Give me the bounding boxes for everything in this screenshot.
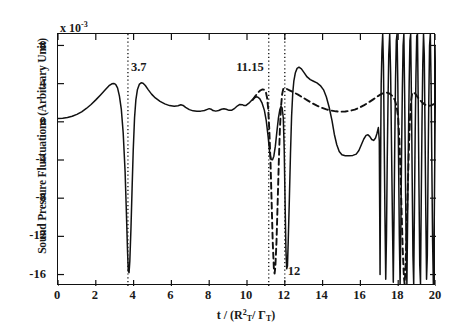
x-tick-label: 0 [54, 288, 60, 303]
x-label-pre: t / (R [217, 308, 243, 322]
y-tick-label: -4 [36, 152, 51, 167]
x-tick-label: 14 [315, 288, 328, 303]
exponent-power: -3 [81, 20, 88, 29]
y-tick-label: 8 [40, 37, 51, 52]
x-label-gamma: Γ [258, 308, 266, 322]
x-tick-label: 10 [240, 288, 253, 303]
annotation-label: 3.7 [131, 60, 147, 75]
x-tick-label: 4 [129, 288, 135, 303]
y-tick-label: -16 [29, 266, 51, 281]
x-label-post: ) [271, 308, 275, 322]
x-tick-label: 12 [278, 288, 291, 303]
x-tick-label: 20 [429, 288, 442, 303]
x-tick-label: 8 [205, 288, 211, 303]
y-tick-label: -8 [36, 190, 51, 205]
figure-container: Sound Pressure Fluctuations (Arbitrary U… [0, 0, 464, 334]
annotation-label: 12 [288, 264, 301, 279]
x-tick-label: 6 [167, 288, 173, 303]
y-tick-label: 4 [40, 75, 51, 90]
x-tick-label: 18 [391, 288, 404, 303]
x-axis-label: t / (R2T/ ΓT) [57, 308, 435, 323]
y-axis-tick-labels: 840-4-8-12-16 [0, 33, 51, 285]
annotation-label: 11.15 [236, 60, 263, 75]
y-tick-label: -12 [29, 228, 51, 243]
x-tick-label: 16 [353, 288, 366, 303]
y-tick-label: 0 [40, 113, 51, 128]
x-axis-tick-labels: 02468101214161820 [57, 288, 435, 308]
x-tick-label: 2 [92, 288, 98, 303]
